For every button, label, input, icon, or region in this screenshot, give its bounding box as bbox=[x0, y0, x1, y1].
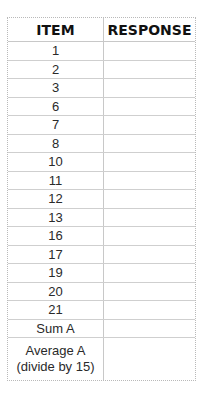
response-cell[interactable] bbox=[104, 97, 196, 116]
response-table: ITEM RESPONSE 123678101112131617192021Su… bbox=[7, 17, 196, 381]
item-cell: 7 bbox=[8, 116, 104, 135]
item-cell: Sum A bbox=[8, 319, 104, 338]
table-row: 11 bbox=[8, 171, 195, 190]
table-row: 10 bbox=[8, 153, 195, 172]
response-cell[interactable] bbox=[104, 79, 196, 98]
table-body: 123678101112131617192021Sum AAverage A(d… bbox=[8, 42, 195, 381]
item-cell: 11 bbox=[8, 171, 104, 190]
item-cell: 20 bbox=[8, 282, 104, 301]
item-cell: 2 bbox=[8, 60, 104, 79]
table-row: 13 bbox=[8, 208, 195, 227]
table-row: 7 bbox=[8, 116, 195, 135]
response-cell[interactable] bbox=[104, 190, 196, 209]
table-row: 2 bbox=[8, 60, 195, 79]
response-cell[interactable] bbox=[104, 264, 196, 283]
header-response: RESPONSE bbox=[104, 18, 196, 42]
item-cell: 21 bbox=[8, 301, 104, 320]
average-response-cell[interactable] bbox=[104, 338, 196, 381]
table-row: 12 bbox=[8, 190, 195, 209]
table-row: Sum A bbox=[8, 319, 195, 338]
item-cell: 8 bbox=[8, 134, 104, 153]
response-cell[interactable] bbox=[104, 134, 196, 153]
item-cell: 19 bbox=[8, 264, 104, 283]
response-cell[interactable] bbox=[104, 245, 196, 264]
response-cell[interactable] bbox=[104, 116, 196, 135]
response-cell[interactable] bbox=[104, 60, 196, 79]
average-label-line2: (divide by 15) bbox=[8, 359, 103, 375]
header-item: ITEM bbox=[8, 18, 104, 42]
table-row: 6 bbox=[8, 97, 195, 116]
table-row: 8 bbox=[8, 134, 195, 153]
item-cell: 13 bbox=[8, 208, 104, 227]
item-cell: 1 bbox=[8, 42, 104, 61]
header-row: ITEM RESPONSE bbox=[8, 18, 195, 42]
table-row: 1 bbox=[8, 42, 195, 61]
table-row: 3 bbox=[8, 79, 195, 98]
item-cell: 10 bbox=[8, 153, 104, 172]
table-row: 16 bbox=[8, 227, 195, 246]
response-cell[interactable] bbox=[104, 319, 196, 338]
item-response-table: ITEM RESPONSE 123678101112131617192021Su… bbox=[8, 18, 195, 380]
average-row: Average A(divide by 15) bbox=[8, 338, 195, 381]
response-cell[interactable] bbox=[104, 227, 196, 246]
item-cell: 12 bbox=[8, 190, 104, 209]
table-row: 20 bbox=[8, 282, 195, 301]
average-label-cell: Average A(divide by 15) bbox=[8, 338, 104, 381]
item-cell: 3 bbox=[8, 79, 104, 98]
response-cell[interactable] bbox=[104, 171, 196, 190]
response-cell[interactable] bbox=[104, 282, 196, 301]
response-cell[interactable] bbox=[104, 208, 196, 227]
table-row: 21 bbox=[8, 301, 195, 320]
item-cell: 17 bbox=[8, 245, 104, 264]
item-cell: 16 bbox=[8, 227, 104, 246]
table-row: 17 bbox=[8, 245, 195, 264]
response-cell[interactable] bbox=[104, 42, 196, 61]
average-label-line1: Average A bbox=[8, 343, 103, 359]
table-row: 19 bbox=[8, 264, 195, 283]
response-cell[interactable] bbox=[104, 153, 196, 172]
response-cell[interactable] bbox=[104, 301, 196, 320]
item-cell: 6 bbox=[8, 97, 104, 116]
